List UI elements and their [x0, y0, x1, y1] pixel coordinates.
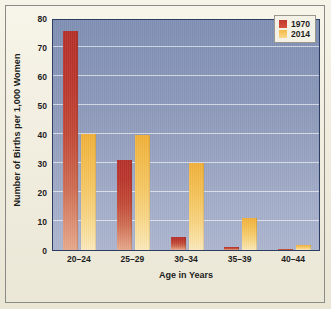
y-tick-label: 70 — [38, 43, 47, 53]
legend-swatch-icon-1970 — [279, 20, 287, 28]
x-tick-label: 40–44 — [281, 254, 305, 264]
x-axis-tick-labels: 20–2425–2930–3435–3940–44 — [52, 254, 320, 268]
bar-1970-35-39 — [224, 247, 239, 250]
bar-1970-30-34 — [171, 237, 186, 250]
y-axis-tick-labels: 01020304050607080 — [23, 19, 50, 251]
legend-swatch-icon-2014 — [279, 30, 287, 38]
bar-2014-35-39 — [242, 218, 257, 250]
y-tick-label: 40 — [38, 130, 47, 140]
y-tick-label: 80 — [38, 14, 47, 24]
legend-label: 2014 — [291, 30, 310, 39]
plot-area — [52, 19, 320, 251]
y-tick-label: 30 — [38, 159, 47, 169]
bar-1970-40-44 — [278, 249, 293, 250]
figure-root: Number of Births per 1,000 Women 0102030… — [0, 0, 331, 309]
x-tick-label: 20–24 — [67, 254, 91, 264]
chart-legend: 19702014 — [274, 15, 316, 43]
bar-2014-30-34 — [189, 163, 204, 250]
bar-2014-20-24 — [81, 134, 96, 250]
x-tick-label: 35–39 — [228, 254, 252, 264]
legend-item-2014: 2014 — [279, 30, 310, 39]
figure-frame: Number of Births per 1,000 Women 0102030… — [5, 5, 325, 303]
legend-item-1970: 1970 — [279, 20, 310, 29]
y-tick-label: 0 — [42, 246, 47, 256]
x-tick-label: 30–34 — [174, 254, 198, 264]
bar-2014-25-29 — [135, 135, 150, 250]
x-tick-label: 25–29 — [121, 254, 145, 264]
y-tick-label: 10 — [38, 217, 47, 227]
legend-label: 1970 — [291, 20, 310, 29]
bar-1970-25-29 — [117, 160, 132, 250]
y-tick-label: 20 — [38, 188, 47, 198]
y-tick-label: 60 — [38, 72, 47, 82]
bar-2014-40-44 — [296, 245, 311, 250]
y-axis-title-text: Number of Births per 1,000 Women — [12, 53, 22, 206]
bar-1970-20-24 — [63, 31, 78, 250]
y-tick-label: 50 — [38, 101, 47, 111]
bar-series-group — [53, 20, 319, 250]
x-axis-title: Age in Years — [52, 270, 320, 280]
